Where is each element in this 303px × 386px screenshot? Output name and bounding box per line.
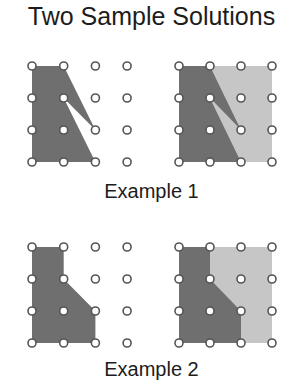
example-2-right-peg xyxy=(206,275,214,283)
example-1-left-peg xyxy=(28,94,36,102)
example-2-right-peg xyxy=(175,275,183,283)
example-2-left-dark-region xyxy=(32,247,95,343)
example-1-right-peg xyxy=(175,158,183,166)
example-2-left-peg xyxy=(91,339,99,347)
example-2-right-peg xyxy=(237,307,245,315)
example-2-right-peg xyxy=(268,243,276,251)
example-2-left-peg xyxy=(28,243,36,251)
example-1-right-peg xyxy=(237,94,245,102)
example-1-right-peg xyxy=(175,94,183,102)
example-1-left-peg xyxy=(91,158,99,166)
example-1-right-peg xyxy=(206,158,214,166)
example-2-left-peg xyxy=(91,243,99,251)
example-1-right-peg xyxy=(175,126,183,134)
example-2-right-peg xyxy=(237,243,245,251)
example-1-left-peg xyxy=(91,126,99,134)
example-2-right-peg xyxy=(237,339,245,347)
example-1-left-peg xyxy=(123,94,131,102)
example-1-right-peg xyxy=(175,62,183,70)
example-1-left-peg xyxy=(60,94,68,102)
example-2-right-peg xyxy=(206,243,214,251)
example-1-right-peg xyxy=(237,126,245,134)
example-1-right-peg xyxy=(206,126,214,134)
example-1-left-peg xyxy=(123,62,131,70)
example-2-left-peg xyxy=(91,307,99,315)
example-1-caption: Example 1 xyxy=(0,180,303,203)
example-1-left-peg xyxy=(91,94,99,102)
example-2-right-peg xyxy=(268,275,276,283)
example-1-right-peg xyxy=(268,126,276,134)
example-2-right-peg xyxy=(237,275,245,283)
example-2-left-peg xyxy=(123,307,131,315)
example-1-left-peg xyxy=(28,158,36,166)
example-1-right-peg xyxy=(268,158,276,166)
example-2-right-peg xyxy=(175,243,183,251)
example-1-left-dark-region xyxy=(32,66,95,162)
example-1-left-peg xyxy=(123,158,131,166)
example-1-right-peg xyxy=(237,62,245,70)
example-2-left-peg xyxy=(123,243,131,251)
example-2-left-peg xyxy=(123,275,131,283)
example-2-left-peg xyxy=(28,339,36,347)
example-1-right-peg xyxy=(268,94,276,102)
example-2-right-peg xyxy=(268,339,276,347)
example-2-left-peg xyxy=(28,275,36,283)
example-2-right-peg xyxy=(175,339,183,347)
example-2-caption: Example 2 xyxy=(0,358,303,381)
example-1-right-peg xyxy=(237,158,245,166)
example-1-left-peg xyxy=(60,126,68,134)
example-2-left-peg xyxy=(28,307,36,315)
example-1-left-peg xyxy=(91,62,99,70)
example-1-left-peg xyxy=(123,126,131,134)
example-2-left-peg xyxy=(91,275,99,283)
example-1-left-peg xyxy=(28,126,36,134)
example-1-right-peg xyxy=(268,62,276,70)
example-1-right-peg xyxy=(206,62,214,70)
example-2-right-peg xyxy=(206,307,214,315)
example-2-left-peg xyxy=(60,307,68,315)
example-2-right-peg xyxy=(175,307,183,315)
example-2-left-peg xyxy=(60,339,68,347)
example-2-left-peg xyxy=(60,243,68,251)
example-1-left-peg xyxy=(60,62,68,70)
example-2-left-peg xyxy=(123,339,131,347)
example-1-left-peg xyxy=(60,158,68,166)
example-2-right-peg xyxy=(268,307,276,315)
example-1-left-peg xyxy=(28,62,36,70)
example-2-right-peg xyxy=(206,339,214,347)
example-1-right-peg xyxy=(206,94,214,102)
example-2-left-peg xyxy=(60,275,68,283)
